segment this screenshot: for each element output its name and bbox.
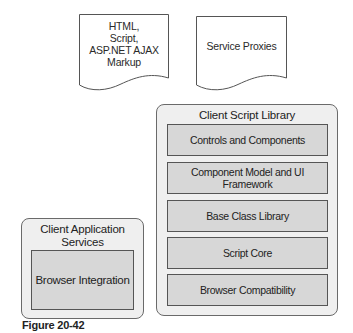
service-proxies-document-shape: Service Proxies — [196, 16, 287, 92]
layer-controls-and-components: Controls and Components — [167, 124, 328, 156]
title-line-1: Client Application — [22, 223, 143, 236]
figure-caption: Figure 20-42 — [22, 319, 84, 331]
title-line-2: Services — [22, 236, 143, 249]
layer-script-core: Script Core — [167, 237, 328, 269]
doc-line-1: HTML, — [79, 20, 169, 32]
doc-line-3: ASP.NET AJAX — [79, 44, 169, 56]
client-script-library-title: Client Script Library — [157, 109, 337, 122]
layer-base-class-library: Base Class Library — [167, 200, 328, 232]
layer-component-model-ui-framework: Component Model and UI Framework — [167, 162, 328, 194]
layer-browser-integration: Browser Integration — [31, 250, 134, 310]
doc-line-4: Markup — [79, 56, 169, 68]
markup-document-label: HTML, Script, ASP.NET AJAX Markup — [79, 20, 169, 68]
markup-document-shape: HTML, Script, ASP.NET AJAX Markup — [79, 14, 169, 92]
document-shape-icon — [196, 16, 287, 92]
layer-browser-compatibility: Browser Compatibility — [167, 274, 328, 306]
doc-line-2: Script, — [79, 32, 169, 44]
client-application-services-title: Client Application Services — [22, 223, 143, 249]
service-proxies-label: Service Proxies — [196, 40, 287, 52]
